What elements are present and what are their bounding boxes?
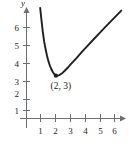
x-tick-label-3: 3 — [68, 126, 73, 136]
y-tick-label-3: 3 — [15, 77, 20, 87]
x-tick-label-5: 5 — [98, 126, 103, 136]
minimum-point-marker — [54, 74, 58, 78]
x-tick-label-1: 1 — [38, 126, 43, 136]
x-tick-label-2: 2 — [53, 126, 58, 136]
x-tick-label-4: 4 — [83, 126, 88, 136]
minimum-point-label: (2, 3) — [51, 81, 72, 92]
coordinate-plot: y 6 5 4 3 2 1 1 2 3 4 5 6 (2, 3) — [0, 0, 129, 144]
function-curve — [40, 8, 121, 76]
y-axis-label: y — [20, 0, 25, 8]
graph-figure: y 6 5 4 3 2 1 1 2 3 4 5 6 (2, 3) — [0, 0, 129, 144]
y-tick-label-2: 2 — [15, 89, 20, 99]
x-axis-arrow-icon — [120, 116, 126, 122]
x-tick-label-6: 6 — [112, 126, 117, 136]
y-tick-label-6: 6 — [15, 23, 20, 33]
y-tick-label-1: 1 — [15, 106, 20, 116]
y-tick-label-5: 5 — [15, 41, 20, 51]
y-tick-label-4: 4 — [15, 59, 20, 69]
